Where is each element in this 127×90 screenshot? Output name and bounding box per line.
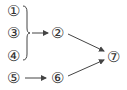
node-5: ⑤ (5, 70, 21, 86)
node-1: ① (5, 3, 21, 19)
node-7: ⑦ (105, 49, 121, 65)
brace-group-1-3-4 (23, 6, 30, 60)
node-3: ③ (5, 25, 21, 41)
arrow-2-to-7 (68, 34, 104, 51)
node-4: ④ (5, 48, 21, 64)
arrow-6-to-7 (68, 60, 104, 76)
node-2: ② (49, 25, 65, 41)
node-6: ⑥ (49, 70, 65, 86)
